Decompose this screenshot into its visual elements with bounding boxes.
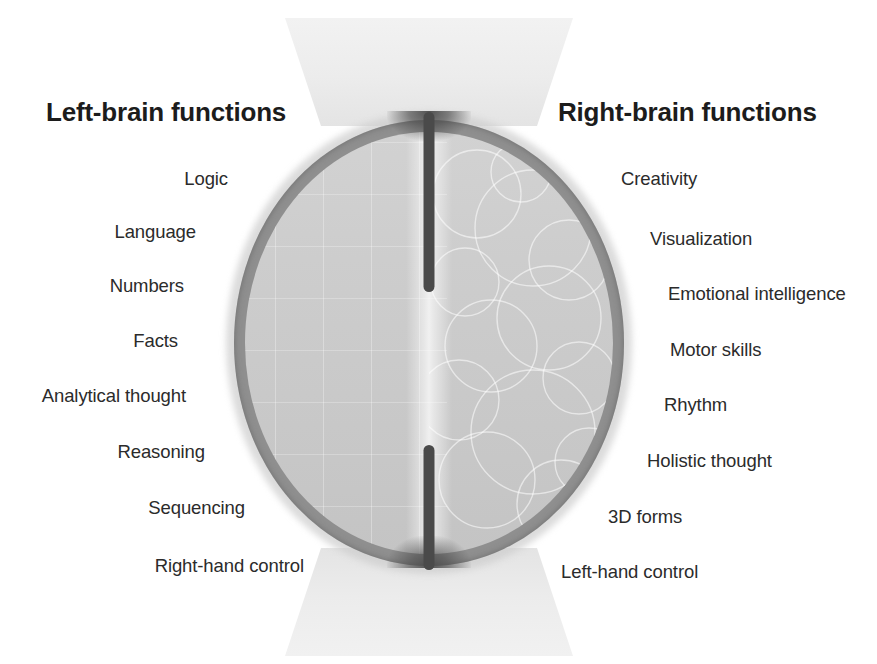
brain-ring-shading	[234, 120, 624, 566]
right-function-label: Emotional intelligence	[668, 283, 846, 305]
left-function-label: Analytical thought	[42, 385, 186, 407]
left-function-label: Numbers	[110, 275, 184, 297]
right-function-label: Motor skills	[670, 339, 761, 361]
right-function-label: Rhythm	[664, 394, 727, 416]
upper-fan-shape	[279, 18, 579, 126]
left-brain-heading: Left-brain functions	[46, 97, 286, 128]
left-function-label: Language	[114, 221, 196, 243]
infographic-canvas: Left-brain functions Right-brain functio…	[0, 0, 877, 664]
right-function-label: Creativity	[621, 168, 697, 190]
right-function-label: 3D forms	[608, 506, 682, 528]
right-function-label: Holistic thought	[647, 450, 772, 472]
right-function-label: Visualization	[650, 228, 752, 250]
left-function-label: Right-hand control	[155, 555, 304, 577]
right-brain-heading: Right-brain functions	[558, 97, 817, 128]
left-function-label: Reasoning	[117, 441, 205, 463]
left-function-label: Facts	[133, 330, 178, 352]
left-function-label: Sequencing	[148, 497, 245, 519]
right-function-label: Left-hand control	[561, 561, 698, 583]
left-function-label: Logic	[184, 168, 228, 190]
